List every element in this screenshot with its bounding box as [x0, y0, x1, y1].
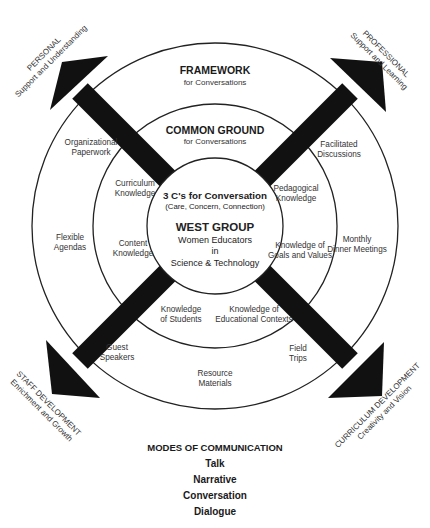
outer-item-flexible-agendas: Flexible Agendas	[54, 233, 86, 252]
west-group-title: WEST GROUP	[176, 221, 255, 233]
svg-text:Knowledge of: Knowledge of	[275, 241, 325, 250]
svg-text:Materials: Materials	[198, 379, 231, 388]
svg-text:Speakers: Speakers	[100, 353, 135, 362]
svg-text:Educational Contexts: Educational Contexts	[215, 315, 292, 324]
middle-item-pedagogical-knowledge: Pedagogical Knowledge	[273, 184, 318, 203]
svg-text:Trips: Trips	[289, 354, 307, 363]
svg-text:Monthly: Monthly	[343, 235, 373, 244]
svg-text:Knowledge of: Knowledge of	[229, 305, 279, 314]
mode-narrative: Narrative	[0, 474, 430, 485]
modes-of-communication-title: MODES OF COMMUNICATION	[0, 442, 430, 453]
outer-item-resource-materials: Resource Materials	[197, 369, 232, 388]
svg-text:Goals and Values: Goals and Values	[268, 251, 332, 260]
svg-text:Curriculum: Curriculum	[115, 179, 155, 188]
outer-item-organizational-paperwork: Organizational Paperwork	[65, 138, 118, 157]
mode-talk: Talk	[0, 458, 430, 469]
svg-text:Organizational: Organizational	[65, 138, 118, 147]
middle-item-curriculum-knowledge: Curriculum Knowledge	[115, 179, 156, 198]
svg-text:Paperwork: Paperwork	[71, 148, 111, 157]
common-ground-subtitle: for Conversations	[184, 137, 247, 146]
outer-item-facilitated-discussions: Facilitated Discussions	[317, 140, 361, 159]
svg-text:Dinner Meetings: Dinner Meetings	[327, 245, 387, 254]
framework-title: FRAMEWORK	[180, 64, 251, 76]
corner-label-personal: PERSONAL Support and Understanding	[6, 16, 89, 99]
svg-text:Discussions: Discussions	[317, 150, 361, 159]
common-ground-title: COMMON GROUND	[166, 124, 265, 136]
mode-dialogue: Dialogue	[0, 506, 430, 517]
svg-text:Agendas: Agendas	[54, 243, 86, 252]
middle-item-educational-contexts: Knowledge of Educational Contexts	[215, 305, 292, 324]
svg-text:Guest: Guest	[106, 343, 129, 352]
svg-text:Content: Content	[119, 239, 148, 248]
svg-text:Facilitated: Facilitated	[320, 140, 358, 149]
svg-text:Knowledge: Knowledge	[113, 249, 154, 258]
svg-text:Knowledge: Knowledge	[115, 189, 156, 198]
framework-subtitle: for Conversations	[184, 78, 247, 87]
svg-text:Flexible: Flexible	[56, 233, 85, 242]
middle-item-content-knowledge: Content Knowledge	[113, 239, 154, 258]
svg-text:Resource: Resource	[197, 369, 232, 378]
core-title: 3 C's for Conversation	[163, 190, 267, 201]
svg-text:Pedagogical: Pedagogical	[273, 184, 318, 193]
svg-text:of Students: of Students	[160, 315, 201, 324]
core-subtitle: (Care, Concern, Connection)	[165, 202, 265, 211]
mode-conversation: Conversation	[0, 490, 430, 501]
middle-item-knowledge-of-students: Knowledge of Students	[160, 305, 201, 324]
svg-text:Knowledge: Knowledge	[276, 194, 317, 203]
svg-text:Field: Field	[289, 344, 307, 353]
middle-item-goals-and-values: Knowledge of Goals and Values	[268, 241, 332, 260]
svg-text:Knowledge: Knowledge	[161, 305, 202, 314]
west-group-line3: Science & Technology	[171, 258, 260, 268]
west-group-line2: in	[211, 246, 218, 256]
west-group-line1: Women Educators	[178, 235, 252, 245]
outer-item-field-trips: Field Trips	[289, 344, 307, 363]
